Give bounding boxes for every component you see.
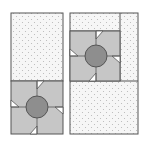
left-pinwheel-block: [11, 81, 63, 134]
left-center-circle: [26, 96, 48, 118]
right-pinwheel-block: [70, 31, 120, 81]
right-panel: [70, 13, 138, 134]
left-dotted-area: [11, 13, 63, 81]
left-panel: [11, 13, 63, 134]
quilt-diagram: [0, 0, 145, 145]
right-center-circle: [85, 45, 107, 67]
